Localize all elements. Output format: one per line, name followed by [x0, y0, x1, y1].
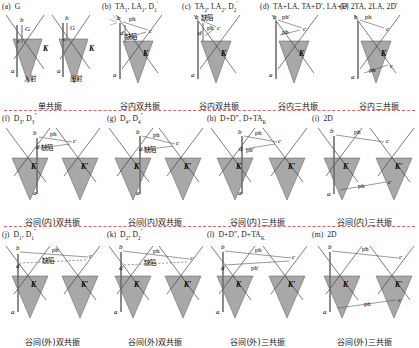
- phonon-arrow-intervalley: [39, 137, 72, 142]
- point-label-a: a: [33, 189, 37, 197]
- panel-j-stage: b a c d K K' ph 缺陷: [0, 238, 105, 324]
- valley-label-K: K: [133, 280, 140, 289]
- panel-k: (k) D2, D2″ b a c d: [105, 228, 205, 348]
- point-label-c-upper: c: [386, 137, 390, 145]
- point-label-d: d: [198, 29, 202, 37]
- panel-l-stage: b a c d K K' ph ph': [205, 238, 310, 324]
- valley-label-K: K: [30, 162, 37, 171]
- point-label-c: c: [217, 24, 221, 32]
- panel-e-tag: (e): [340, 2, 349, 11]
- annotation-defect: 缺陷: [41, 143, 53, 152]
- panel-h-stage: b a c d K K' ph ph': [205, 122, 310, 206]
- point-label-a-left: a: [11, 67, 15, 75]
- panel-b: (b) TA1, LA1, D1′ b a c: [100, 0, 180, 112]
- panel-e-stage: b a c c K ph ph: [338, 11, 419, 89]
- point-label-b: b: [16, 244, 20, 252]
- point-label-a: a: [113, 71, 117, 79]
- panel-b-tag: (b): [102, 2, 111, 11]
- annotation-ph-lower: ph: [358, 182, 365, 189]
- annotation-ph-prime: ph': [282, 13, 290, 20]
- point-label-a-right: a: [57, 67, 61, 75]
- valley-label-K: K: [142, 49, 149, 58]
- panel-d-title: (d) TA+LA, TA+D′, LA+D′: [260, 2, 349, 11]
- panel-m: (m) 2D b a c c K: [310, 228, 419, 348]
- panel-f-stage: b a c d K K' ph 缺陷: [0, 122, 105, 206]
- annotation-ph: ph: [255, 246, 262, 253]
- annotation-ph-upper: ph: [354, 128, 361, 135]
- valley-label-K: K: [220, 49, 227, 58]
- valley-label-Kprime: K': [287, 280, 295, 289]
- panel-c-tag: (c): [182, 2, 191, 11]
- valley-label-Kprime: K': [287, 162, 295, 171]
- point-label-d: d: [120, 29, 124, 37]
- panel-b-title: (b) TA1, LA1, D1′: [102, 2, 158, 11]
- cone-Kprime: [269, 158, 305, 200]
- point-label-c-upper: c: [399, 253, 403, 261]
- cone-Kprime: [165, 158, 201, 200]
- panel-a-stage: a b c K G a b c K G 入射 出射: [0, 11, 100, 89]
- row-divider-1: [4, 110, 415, 111]
- valley-label-K: K: [133, 162, 140, 171]
- point-label-a: a: [327, 190, 331, 198]
- cone-Kprime: [376, 158, 412, 200]
- cone-Kprime: [376, 276, 412, 318]
- caption-j: 谷间(外)双共振: [0, 336, 105, 347]
- panel-d-tag: (d): [260, 2, 269, 11]
- annotation-ph-upper: ph: [365, 13, 372, 20]
- panel-a-tag: (a): [2, 2, 11, 11]
- caption-k: 谷间(外)双共振: [105, 336, 205, 347]
- annotation-ph: ph: [153, 247, 160, 254]
- panel-c-title: (c) TA2, LA2, D2′: [182, 2, 238, 11]
- point-label-b: b: [117, 14, 121, 22]
- point-label-b: b: [33, 129, 37, 137]
- sub-label-incident: 入射: [24, 74, 37, 83]
- annotation-ph: ph: [50, 130, 57, 137]
- band-label-g-right: G: [70, 24, 75, 32]
- phonon-arrow-upper: [332, 251, 398, 258]
- point-label-b-left: b: [20, 16, 24, 24]
- point-label-d: d: [119, 264, 123, 272]
- valley-label-Kprime: K': [80, 280, 88, 289]
- valley-label-K: K: [342, 162, 349, 171]
- row-1: (a) G a b c K: [0, 0, 419, 112]
- panel-i-stage: b a c c K K' ph ph: [310, 122, 419, 206]
- valley-label-K: K: [30, 280, 37, 289]
- point-label-d: d: [16, 262, 20, 270]
- point-label-c: c: [303, 25, 307, 33]
- point-label-b: b: [328, 243, 332, 251]
- phonon-arrow: [123, 22, 148, 30]
- valley-label-Kprime: K': [80, 162, 88, 171]
- point-label-a: a: [269, 71, 273, 79]
- point-label-d: d: [221, 264, 225, 272]
- point-label-d: d: [139, 145, 143, 153]
- cone-Kprime: [62, 276, 98, 318]
- point-label-a: a: [11, 308, 15, 316]
- excitation-burst-icon: [109, 15, 117, 25]
- point-label-b-right: b: [65, 14, 69, 22]
- panel-l: (l) D+D″, D+TAK b a c d: [205, 228, 310, 348]
- point-label-b: b: [354, 13, 358, 21]
- annotation-ph: ph: [282, 28, 289, 35]
- phonon-arrow-upper: [360, 20, 384, 28]
- caption-m: 谷间(外)三共振: [310, 336, 419, 347]
- annotation-ph: ph: [255, 129, 262, 136]
- panel-g-stage: b a c d K K' ph 缺陷: [105, 122, 205, 206]
- panel-c-stage: b a c d K ph 缺陷: [180, 11, 258, 89]
- band-label-g-left: G: [25, 25, 30, 33]
- cone-K: [12, 158, 48, 200]
- annotation-ph: ph: [153, 131, 160, 138]
- annotation-defect: 缺陷: [42, 256, 54, 265]
- row-2: (f) D3, D3″ b a c d: [0, 112, 419, 228]
- panel-d-stage: b a c K ph' ph: [258, 11, 338, 89]
- point-label-d: d: [239, 145, 243, 153]
- point-label-a: a: [216, 308, 220, 316]
- point-label-a: a: [191, 71, 195, 79]
- annotation-ph: ph: [207, 24, 214, 31]
- annotation-defect: 缺陷: [201, 13, 213, 22]
- point-label-c: c: [292, 253, 296, 261]
- point-label-b: b: [273, 13, 277, 21]
- point-label-a: a: [136, 189, 140, 197]
- valley-label-K: K: [342, 280, 349, 289]
- point-label-b: b: [238, 128, 242, 136]
- panel-a-title: (a) G: [2, 2, 20, 11]
